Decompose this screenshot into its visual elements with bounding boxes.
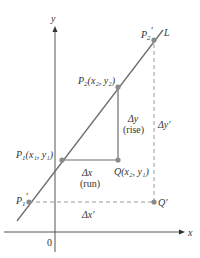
origin-label: 0 <box>47 237 52 248</box>
run-label: (run) <box>80 178 100 190</box>
point-Q <box>115 157 120 162</box>
delta-y-label: Δy <box>127 113 139 124</box>
slope-diagram: y x 0 L P2′ P2(x₂, y₂) P1(x₁, y₁) Q(x₂, … <box>0 0 200 258</box>
y-axis-label: y <box>50 13 56 24</box>
x-axis-arrow-icon <box>179 230 185 235</box>
label-P2: P2(x₂, y₂) <box>77 75 116 88</box>
y-axis-arrow-icon <box>53 26 58 32</box>
line-label: L <box>163 27 170 38</box>
point-Q-prime <box>151 199 156 204</box>
rise-label: (rise) <box>123 124 144 136</box>
point-P1 <box>59 157 64 162</box>
label-Q: Q(x₂, y₁) <box>114 166 149 178</box>
point-P2 <box>115 84 120 89</box>
x-axis-label: x <box>187 227 193 238</box>
label-P1: P1(x₁, y₁) <box>15 149 54 162</box>
point-P2-prime <box>151 37 156 42</box>
label-Q-prime: Q′ <box>158 197 168 208</box>
delta-x-prime-label: Δx′ <box>81 209 95 220</box>
delta-x-label: Δx <box>81 167 93 178</box>
label-P1-prime: P1′ <box>15 191 29 208</box>
delta-y-prime-label: Δy′ <box>157 119 171 130</box>
